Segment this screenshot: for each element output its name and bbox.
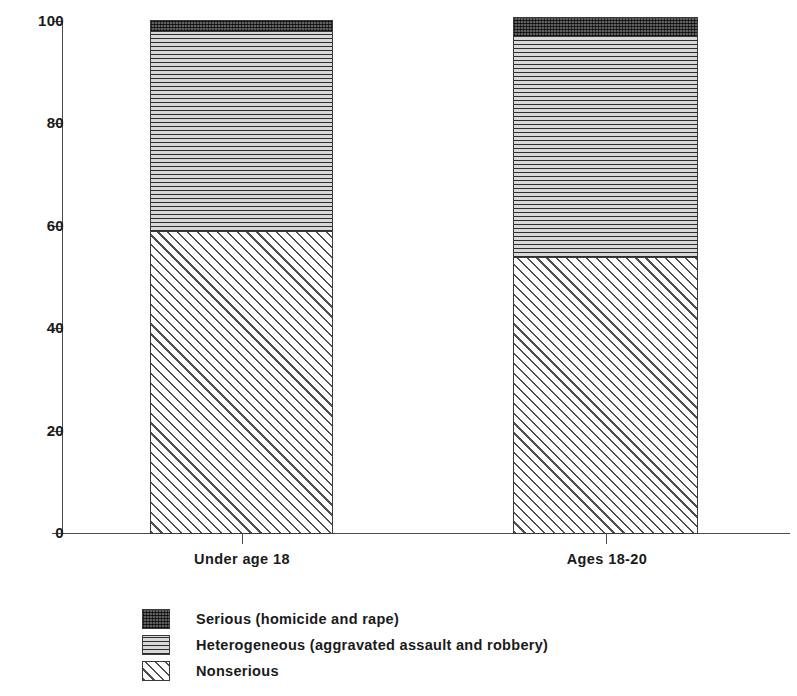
x-tick-mark-ages-18-20 [606,534,607,544]
chart-legend: Serious (homicide and rape) Heterogeneou… [142,606,702,684]
legend-item-nonserious: Nonserious [142,658,702,684]
x-axis-label-ages-18-20: Ages 18-20 [527,551,687,567]
legend-item-serious: Serious (homicide and rape) [142,606,702,632]
bar-segment-serious-under-age-18 [150,20,333,32]
bar-segment-nonserious-under-age-18 [150,231,333,534]
y-tick-label: 0 [18,525,64,540]
y-tick-label: 40 [18,320,64,335]
bar-segment-heterogeneous-ages-18-20 [513,36,698,258]
y-tick-label: 80 [18,115,64,130]
x-tick-mark-under-age-18 [242,534,243,544]
bar-segment-heterogeneous-under-age-18 [150,31,333,232]
y-tick-label: 100 [18,13,64,28]
bar-segment-nonserious-ages-18-20 [513,257,698,534]
legend-item-heterogeneous: Heterogeneous (aggravated assault and ro… [142,632,702,658]
legend-swatch-nonserious-icon [142,661,170,681]
legend-swatch-heterogeneous-icon [142,635,170,655]
bar-segment-serious-ages-18-20 [513,17,698,37]
legend-label-heterogeneous: Heterogeneous (aggravated assault and ro… [196,637,548,653]
stacked-bar-chart: 100 80 60 40 20 0 Under age 18 Ages 18-2… [0,0,797,696]
legend-label-nonserious: Nonserious [196,663,279,679]
legend-label-serious: Serious (homicide and rape) [196,611,399,627]
y-axis-line [62,21,63,534]
y-tick-label: 60 [18,218,64,233]
legend-swatch-serious-icon [142,609,170,629]
x-axis-label-under-age-18: Under age 18 [162,551,322,567]
y-tick-label: 20 [18,423,64,438]
